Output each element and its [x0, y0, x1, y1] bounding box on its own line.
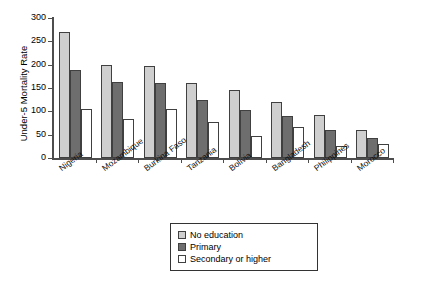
y-tick-label: 50 [22, 129, 46, 139]
bar [314, 115, 325, 158]
bar [271, 102, 282, 158]
y-tick-label: 300 [22, 12, 46, 22]
bar-group [59, 18, 92, 158]
bar [101, 65, 112, 158]
y-tick-mark [48, 41, 53, 42]
legend-item-no-education: No education [178, 229, 311, 241]
legend-item-primary: Primary [178, 241, 311, 253]
bar [186, 83, 197, 158]
plot-area [53, 18, 393, 158]
legend-swatch-primary [178, 243, 186, 251]
legend-item-secondary-or-higher: Secondary or higher [178, 253, 311, 265]
bar [81, 109, 92, 158]
bar-group [314, 18, 347, 158]
legend-label-primary: Primary [190, 242, 221, 252]
bar-group [271, 18, 304, 158]
bar-group [186, 18, 219, 158]
x-tick-mark [223, 158, 224, 163]
y-tick-label: 150 [22, 82, 46, 92]
x-tick-mark [266, 158, 267, 163]
y-tick-label: 0 [22, 152, 46, 162]
y-tick-mark [48, 158, 53, 159]
x-tick-mark [393, 158, 394, 163]
bar-group [144, 18, 177, 158]
bar [112, 82, 123, 158]
bar [59, 32, 70, 158]
y-tick-label: 100 [22, 105, 46, 115]
y-tick-mark [48, 88, 53, 89]
chart-legend: No education Primary Secondary or higher [170, 223, 318, 271]
y-tick-mark [48, 111, 53, 112]
x-tick-mark [181, 158, 182, 163]
bar-chart-figure: Under-5 Mortality Rate 05010015020025030… [0, 0, 427, 287]
bar-group [229, 18, 262, 158]
legend-label-no-education: No education [190, 230, 243, 240]
x-tick-mark [138, 158, 139, 163]
y-tick-mark [48, 18, 53, 19]
bar [356, 130, 367, 158]
x-tick-mark [308, 158, 309, 163]
x-tick-mark [351, 158, 352, 163]
legend-swatch-secondary-or-higher [178, 255, 186, 263]
bar-group [101, 18, 134, 158]
x-tick-mark [96, 158, 97, 163]
bar-group [356, 18, 389, 158]
bar [70, 70, 81, 158]
y-tick-label: 250 [22, 35, 46, 45]
y-tick-label: 200 [22, 59, 46, 69]
legend-swatch-no-education [178, 231, 186, 239]
bar [144, 66, 155, 158]
y-tick-mark [48, 65, 53, 66]
bar [251, 136, 262, 158]
y-tick-mark [48, 135, 53, 136]
bar [229, 90, 240, 158]
legend-label-secondary-or-higher: Secondary or higher [190, 254, 271, 264]
